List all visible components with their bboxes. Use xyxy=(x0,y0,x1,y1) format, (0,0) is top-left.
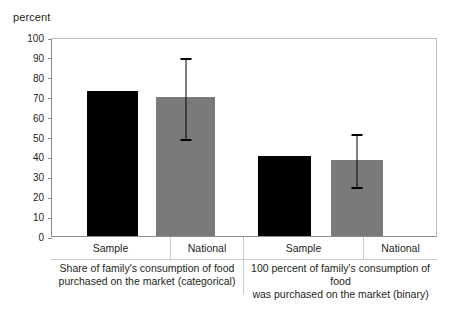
plot-area: 0102030405060708090100 xyxy=(51,38,437,237)
y-axis-tick-mark xyxy=(48,218,52,219)
group-caption-line: purchased on the market (categorical) xyxy=(59,275,236,288)
y-axis-tick: 40 xyxy=(14,153,52,163)
y-axis-tick-mark xyxy=(48,158,52,159)
error-bar-cap-upper xyxy=(352,134,363,136)
y-axis-tick: 60 xyxy=(14,114,52,124)
y-axis-tick-mark xyxy=(48,178,52,179)
y-axis-tick-label: 20 xyxy=(14,193,48,203)
bar xyxy=(258,156,311,236)
y-axis-tick-label: 40 xyxy=(14,153,48,163)
y-axis-tick: 0 xyxy=(14,233,52,243)
y-axis-tick: 10 xyxy=(14,213,52,223)
y-axis-tick: 100 xyxy=(14,34,52,44)
y-axis-title: percent xyxy=(13,11,50,24)
y-axis-tick: 80 xyxy=(14,74,52,84)
x-axis-tick-label: Sample xyxy=(51,237,171,260)
group-caption-line: was purchased on the market (binary) xyxy=(244,288,437,301)
group-caption-line: Share of family's consumption of food xyxy=(59,262,236,275)
x-axis-tick-label: National xyxy=(171,237,244,260)
y-axis-tick-mark xyxy=(48,58,52,59)
y-axis-tick-mark xyxy=(48,98,52,99)
y-axis-tick-mark xyxy=(48,118,52,119)
y-axis-tick-label: 60 xyxy=(14,114,48,124)
y-axis-tick-label: 0 xyxy=(14,233,48,243)
y-axis-tick: 20 xyxy=(14,193,52,203)
y-axis-tick-mark xyxy=(48,138,52,139)
group-caption-line: 100 percent of family's consumption of f… xyxy=(244,262,437,288)
x-axis-tick-label-row: SampleNationalSampleNational xyxy=(51,237,437,260)
y-axis-tick-label: 90 xyxy=(14,54,48,64)
y-axis-tick-label: 50 xyxy=(14,134,48,144)
y-axis-tick: 50 xyxy=(14,134,52,144)
x-axis-group-caption-row: Share of family's consumption of foodpur… xyxy=(51,260,437,294)
x-axis-group-caption: 100 percent of family's consumption of f… xyxy=(244,260,437,294)
error-bar-cap-lower xyxy=(352,187,363,189)
y-axis-tick-mark xyxy=(48,78,52,79)
y-axis-tick-label: 70 xyxy=(14,94,48,104)
error-bar-cap-lower xyxy=(180,139,191,141)
x-axis-tick-label: National xyxy=(364,237,437,260)
y-axis-tick: 70 xyxy=(14,94,52,104)
bar xyxy=(87,91,138,236)
y-axis-tick-label: 30 xyxy=(14,173,48,183)
y-axis-tick: 90 xyxy=(14,54,52,64)
y-axis-tick-label: 10 xyxy=(14,213,48,223)
bar-chart: percent 0102030405060708090100 SampleNat… xyxy=(0,0,453,317)
y-axis-tick: 30 xyxy=(14,173,52,183)
error-bar-line xyxy=(357,135,358,189)
y-axis-tick-label: 80 xyxy=(14,74,48,84)
x-axis-tick-label: Sample xyxy=(244,237,364,260)
y-axis-tick-label: 100 xyxy=(14,34,48,44)
x-axis-group-caption: Share of family's consumption of foodpur… xyxy=(51,260,244,294)
y-axis-tick-mark xyxy=(48,198,52,199)
y-axis-tick-mark xyxy=(48,39,52,40)
error-bar-line xyxy=(185,59,186,141)
error-bar-cap-upper xyxy=(180,58,191,60)
